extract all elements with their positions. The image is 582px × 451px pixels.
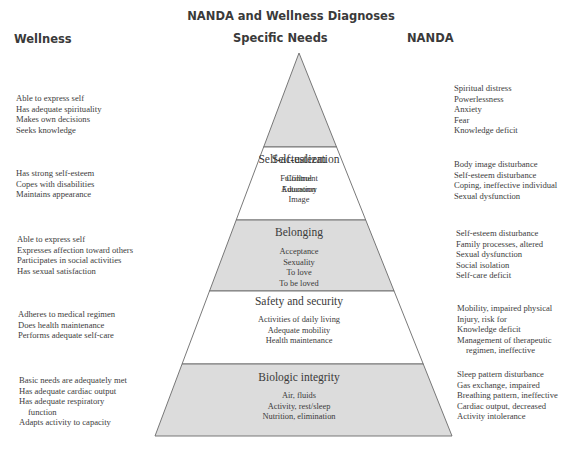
pyramid-need-item: To be loved xyxy=(279,279,319,288)
pyramid-need-item: Control xyxy=(286,174,312,183)
pyramid-need-item: Adequate mobility xyxy=(268,326,331,335)
pyramid-need-item: Image xyxy=(289,195,310,204)
pyramid-need-item: Autonomy xyxy=(281,185,318,194)
pyramid-need-item: Sexuality xyxy=(283,258,315,267)
pyramid-level-title: Biologic integrity xyxy=(258,371,340,384)
pyramid-need-item: Activity, rest/sleep xyxy=(268,402,331,411)
pyramid-need-item: Acceptance xyxy=(279,247,318,256)
pyramid-need-item: Health maintenance xyxy=(266,336,333,345)
pyramid-level-title: Safety and security xyxy=(255,295,343,308)
pyramid-level-self-actualization xyxy=(264,53,337,147)
needs-pyramid: Self-actualizationFulfillmentEducationSe… xyxy=(0,0,582,451)
pyramid-need-item: Air, fluids xyxy=(282,391,316,400)
pyramid-level-title: Belonging xyxy=(275,226,323,239)
pyramid-level-title: Self-esteem xyxy=(272,153,326,165)
pyramid-need-item: Activities of daily living xyxy=(258,315,341,324)
pyramid-need-item: Nutrition, elimination xyxy=(262,412,336,421)
pyramid-need-item: To love xyxy=(286,268,312,277)
